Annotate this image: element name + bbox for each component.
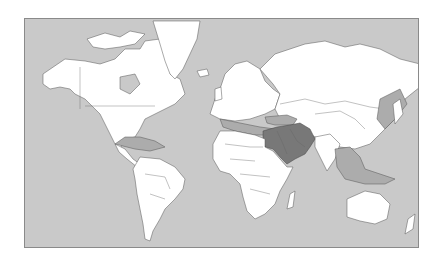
arctic-islands <box>87 31 145 49</box>
southeast-asia <box>335 147 395 184</box>
world-map <box>24 18 419 248</box>
australia <box>347 191 390 224</box>
iceland <box>197 69 209 77</box>
world-map-svg <box>25 19 419 248</box>
uk <box>215 87 222 101</box>
new-zealand <box>405 214 415 234</box>
madagascar <box>287 191 295 209</box>
south-america <box>133 157 185 241</box>
